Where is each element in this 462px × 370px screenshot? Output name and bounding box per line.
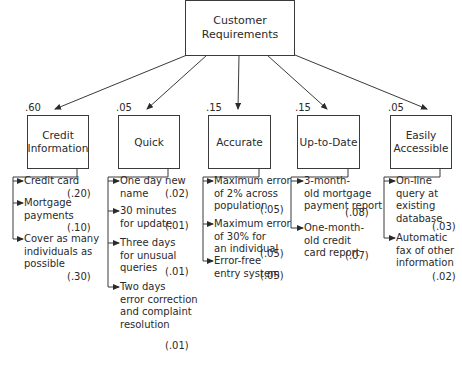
arrow-root-to-quick [147,55,207,109]
arrow-root-to-accurate [238,55,239,109]
requirement-item: Cover as many individuals as possible [24,233,99,271]
requirement-item: Two days error correction and complaint … [120,281,198,331]
root-node-customer-requirements: Customer Requirements [185,0,295,56]
requirement-item: Credit card [24,175,79,188]
quick-label: Quick [134,136,164,149]
arrow-root-to-easily-accessible [295,55,427,109]
requirement-item: Mortgage payments [24,197,74,222]
easily-accessible-label: Easily Accessible [394,129,449,155]
category-node-credit-information: Credit Information [27,115,89,169]
requirement-score: (.03) [432,221,456,232]
accurate-label: Accurate [216,136,263,149]
credit-information-label: Credit Information [28,129,89,155]
category-node-accurate: Accurate [208,115,271,169]
requirement-score: (.01) [165,340,189,351]
requirement-item: On-line query at existing database [396,175,442,225]
accurate-weight: .15 [206,102,222,113]
requirement-score: (.01) [165,266,189,277]
category-node-easily-accessible: Easily Accessible [390,115,452,169]
requirement-score: (.02) [165,188,189,199]
category-node-up-to-date: Up-to-Date [297,115,360,169]
requirement-score: (.01) [165,220,189,231]
requirement-score: (.10) [67,222,91,233]
easily-accessible-weight: .05 [388,102,404,113]
requirement-item: Automatic fax of other information [396,232,454,270]
requirement-score: (.30) [67,271,91,282]
requirement-score: (.07) [345,250,369,261]
requirement-item: 3-month- old mortgage payment report [304,175,382,213]
up-to-date-weight: .15 [295,102,311,113]
arrow-root-to-credit-information [55,55,187,109]
quick-weight: .05 [116,102,132,113]
requirement-score: (.05) [260,270,284,281]
up-to-date-label: Up-to-Date [300,136,358,149]
root-node-label: Customer Requirements [202,14,278,42]
credit-information-weight: .60 [25,102,41,113]
requirements-tree-diagram: Customer Requirements .60Credit Informat… [0,0,462,370]
requirement-score: (.05) [260,204,284,215]
requirement-score: (.02) [432,271,456,282]
requirement-score: (.08) [345,207,369,218]
arrow-root-to-up-to-date [267,55,327,109]
category-node-quick: Quick [118,115,180,169]
